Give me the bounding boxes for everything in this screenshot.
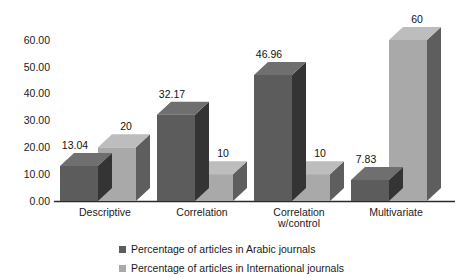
bar-value-label: 32.17: [159, 88, 185, 100]
bar-side-face: [195, 102, 209, 201]
legend-label: Percentage of articles in International …: [131, 262, 344, 274]
bar-chart-figure: 0.0010.0020.0030.0040.0050.0060.00 13.04…: [0, 0, 455, 277]
x-axis-category-label: w/control: [277, 217, 320, 229]
bar-side-face: [292, 62, 306, 201]
legend-item-0: Percentage of articles in Arabic journal…: [119, 243, 315, 255]
y-axis-tick-labels: 0.0010.0020.0030.0040.0050.0060.00: [24, 34, 50, 207]
x-axis-category-labels: DescriptiveCorrelationCorrelationw/contr…: [79, 206, 423, 229]
bar-value-label: 7.83: [356, 153, 377, 165]
bar-value-label: 10: [314, 147, 326, 159]
bar-0-0: [60, 153, 112, 201]
y-axis-tick-label: 50.00: [24, 61, 50, 73]
y-axis-tick-label: 40.00: [24, 87, 50, 99]
bar-value-label: 20: [120, 120, 132, 132]
bars-layer: [60, 27, 441, 201]
bar-value-label: 60: [411, 13, 423, 25]
x-axis-category-label: Descriptive: [79, 206, 131, 218]
legend-label: Percentage of articles in Arabic journal…: [131, 243, 315, 255]
x-axis-category-label: Correlation: [176, 206, 228, 218]
y-axis-tick-label: 30.00: [24, 114, 50, 126]
y-axis-tick-label: 20.00: [24, 141, 50, 153]
bar-0-2: [254, 62, 306, 201]
bar-value-label: 10: [217, 147, 229, 159]
y-axis-tick-label: 60.00: [24, 34, 50, 46]
bar-side-face: [427, 27, 441, 201]
bar-front-face: [254, 75, 292, 201]
bar-front-face: [157, 115, 195, 201]
chart-canvas: 0.0010.0020.0030.0040.0050.0060.00 13.04…: [0, 0, 455, 277]
legend-item-1: Percentage of articles in International …: [119, 262, 344, 274]
legend-swatch: [119, 246, 126, 253]
legend-swatch: [119, 265, 126, 272]
y-axis-tick-label: 0.00: [30, 195, 51, 207]
bar-value-label: 46.96: [256, 48, 282, 60]
bar-front-face: [351, 180, 389, 201]
x-axis-category-label: Multivariate: [369, 206, 423, 218]
chart-legend: Percentage of articles in Arabic journal…: [119, 243, 344, 274]
bar-0-1: [157, 102, 209, 201]
bar-front-face: [60, 166, 98, 201]
y-axis-tick-label: 10.00: [24, 168, 50, 180]
bar-value-label: 13.04: [62, 139, 88, 151]
